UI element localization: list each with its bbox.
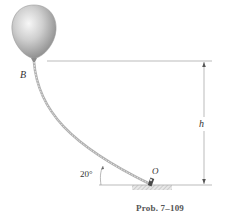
height-label: h	[199, 118, 204, 129]
point-O-label: O	[152, 166, 159, 176]
balloon-tether-diagram: B h 20° O Prob. 7–109	[0, 0, 230, 222]
figure-caption: Prob. 7–109	[136, 203, 184, 213]
diagram-canvas	[0, 0, 230, 222]
angle-indicator	[100, 166, 104, 185]
angle-label: 20°	[80, 169, 93, 179]
balloon-knot	[31, 58, 37, 62]
rope	[34, 62, 150, 184]
rope-texture	[34, 62, 150, 184]
balloon-body	[12, 5, 56, 58]
point-B-label: B	[20, 69, 26, 80]
balloon	[12, 5, 56, 62]
